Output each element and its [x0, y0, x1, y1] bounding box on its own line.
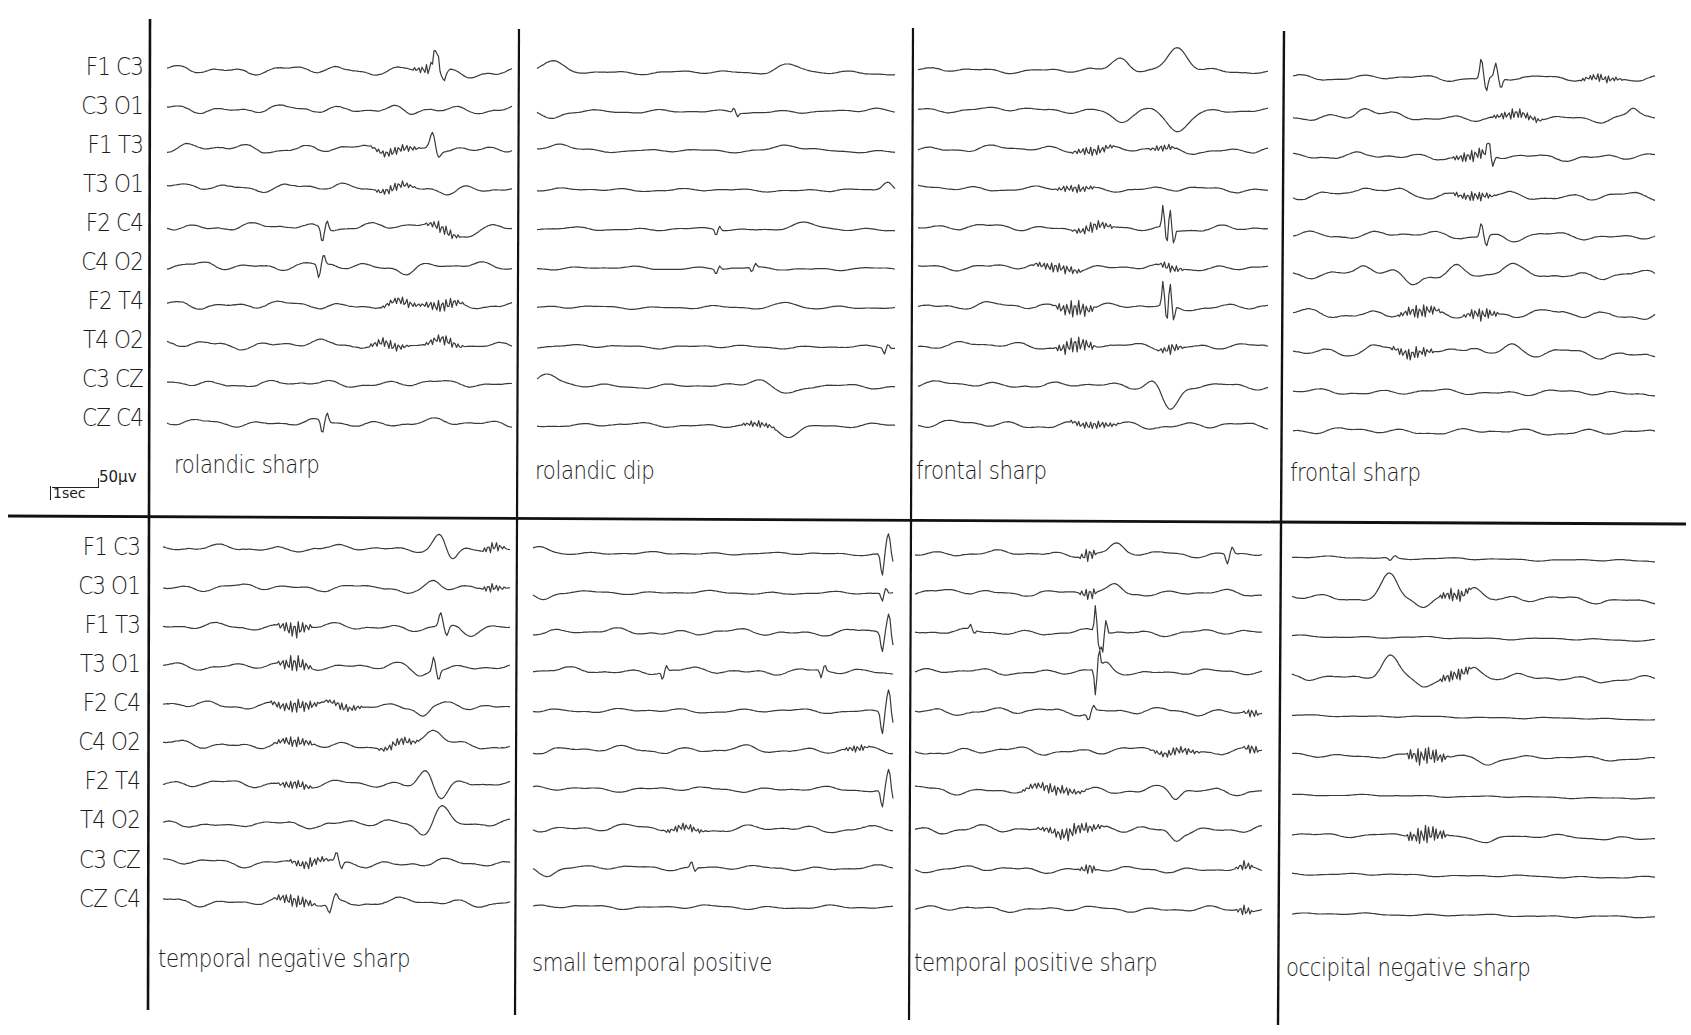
eeg-trace: [915, 745, 1262, 757]
eeg-trace: [537, 182, 895, 192]
eeg-trace: [533, 862, 893, 877]
panel-caption: frontal sharp: [1290, 458, 1421, 487]
eeg-trace: [537, 302, 895, 309]
panel-caption: temporal positive sharp: [914, 948, 1157, 977]
eeg-trace: [533, 534, 893, 575]
eeg-trace: [918, 281, 1268, 320]
scale-amplitude: 50µv: [99, 468, 137, 486]
channel-label: F1 C3: [31, 53, 143, 81]
eeg-trace: [163, 730, 510, 751]
panel-divider: [909, 28, 913, 1020]
channel-label: C4 O2: [28, 728, 140, 756]
eeg-trace: [167, 181, 512, 195]
panel-divider: [148, 19, 150, 1010]
channel-label: F2 C4: [28, 689, 140, 717]
eeg-trace: [918, 144, 1268, 155]
eeg-trace: [918, 107, 1268, 131]
eeg-trace: [1293, 428, 1655, 435]
eeg-trace: [1292, 794, 1655, 799]
channel-label: F2 C4: [31, 209, 143, 237]
eeg-trace: [1292, 913, 1655, 918]
eeg-trace: [915, 705, 1262, 719]
eeg-trace: [533, 769, 893, 807]
row-divider: [8, 516, 1686, 524]
eeg-trace: [1293, 305, 1655, 321]
eeg-trace: [1292, 556, 1655, 562]
eeg-trace: [167, 221, 512, 241]
eeg-trace: [1292, 747, 1655, 765]
eeg-trace: [533, 614, 893, 651]
panel-caption: frontal sharp: [916, 456, 1047, 485]
channel-label: CZ C4: [31, 404, 143, 432]
eeg-trace: [537, 222, 895, 235]
eeg-trace: [163, 771, 510, 799]
eeg-trace: [537, 61, 895, 75]
eeg-trace: [167, 297, 512, 311]
eeg-trace: [918, 337, 1268, 354]
panel-divider: [1278, 31, 1284, 1025]
eeg-trace: [1293, 188, 1655, 201]
panel-caption: rolandic sharp: [174, 450, 319, 479]
channel-label: C3 CZ: [28, 846, 140, 874]
eeg-trace: [533, 666, 893, 680]
panel-caption: temporal negative sharp: [158, 944, 410, 973]
channel-label: C3 O1: [31, 92, 143, 120]
eeg-trace: [167, 381, 512, 388]
panel-divider: [515, 29, 519, 1015]
eeg-trace: [918, 185, 1268, 193]
eeg-trace: [915, 782, 1262, 799]
channel-label: CZ C4: [28, 885, 140, 913]
eeg-trace: [1292, 655, 1655, 687]
eeg-trace: [1293, 263, 1655, 284]
eeg-trace: [1292, 873, 1655, 878]
eeg-trace: [915, 823, 1262, 842]
channel-label: F1 T3: [31, 131, 143, 159]
eeg-trace: [537, 144, 895, 153]
eeg-trace: [918, 205, 1268, 243]
eeg-trace: [167, 51, 512, 81]
eeg-trace: [533, 823, 893, 833]
eeg-trace: [167, 256, 512, 278]
channel-label: F1 C3: [28, 533, 140, 561]
eeg-trace: [163, 613, 510, 638]
eeg-trace: [915, 584, 1262, 600]
eeg-trace: [1292, 825, 1655, 843]
eeg-trace: [533, 905, 893, 910]
channel-label: C3 CZ: [31, 365, 143, 393]
panel-caption: rolandic dip: [535, 456, 654, 485]
eeg-trace: [537, 421, 895, 438]
eeg-figure: [0, 0, 1691, 1035]
channel-label: C3 O1: [28, 572, 140, 600]
eeg-trace: [163, 534, 510, 558]
eeg-trace: [915, 606, 1262, 652]
eeg-trace: [167, 413, 512, 432]
eeg-trace: [915, 543, 1262, 564]
channel-label: C4 O2: [31, 248, 143, 276]
eeg-trace: [163, 806, 510, 835]
panel-caption: small temporal positive: [532, 948, 772, 977]
eeg-trace: [533, 745, 893, 754]
scale-time: 1sec: [50, 486, 86, 500]
eeg-trace: [1292, 573, 1655, 608]
panel-caption: occipital negative sharp: [1286, 953, 1530, 982]
channel-label: F2 T4: [31, 287, 143, 315]
eeg-trace: [915, 905, 1262, 915]
channel-label: T4 O2: [28, 806, 140, 834]
eeg-trace: [918, 381, 1268, 410]
eeg-trace: [163, 699, 510, 716]
eeg-trace: [167, 105, 512, 114]
eeg-trace: [163, 580, 510, 593]
eeg-trace: [1293, 389, 1655, 396]
eeg-trace: [1293, 59, 1655, 90]
eeg-trace: [918, 48, 1268, 74]
eeg-trace: [537, 345, 895, 354]
eeg-trace: [537, 374, 895, 393]
eeg-trace: [1292, 635, 1655, 641]
eeg-trace: [533, 690, 893, 734]
eeg-trace: [1293, 344, 1655, 360]
channel-label: T3 O1: [28, 650, 140, 678]
eeg-trace: [167, 132, 512, 157]
eeg-trace: [915, 651, 1262, 695]
channel-label: T3 O1: [31, 170, 143, 198]
eeg-trace: [915, 861, 1262, 874]
